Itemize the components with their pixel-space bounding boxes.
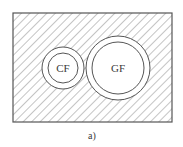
gf-circle: GF: [86, 36, 150, 100]
cf-circle: CF: [42, 47, 84, 89]
cf-label: CF: [56, 62, 69, 74]
figure-caption: a): [88, 130, 96, 142]
diagram-canvas: CF GF a): [0, 0, 183, 147]
gf-label: GF: [111, 62, 125, 74]
